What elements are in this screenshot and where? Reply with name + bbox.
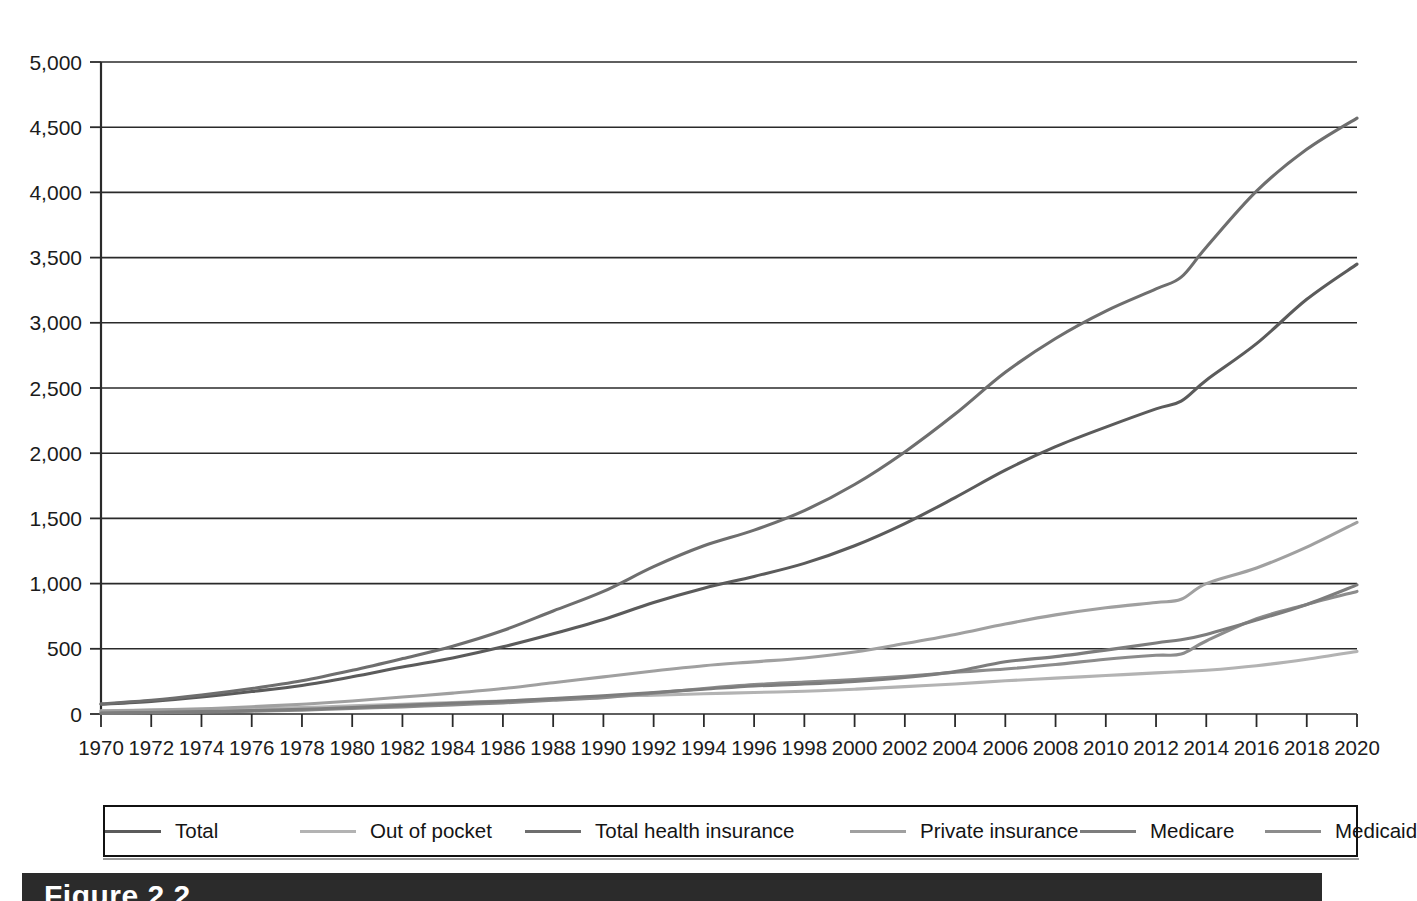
chart-legend: TotalOut of pocketTotal health insurance… [103,805,1358,857]
legend-swatch-icon [525,830,581,833]
legend-swatch-icon [105,830,161,833]
y-axis-tick-label: 3,000 [29,311,82,334]
x-axis-tick-label: 1976 [229,736,275,759]
x-axis-tick-label: 1988 [530,736,576,759]
x-axis-tick-label: 1972 [128,736,174,759]
y-axis-tick-label: 4,500 [29,116,82,139]
legend-swatch-icon [300,830,356,833]
series-line-total [101,264,1357,704]
x-axis-tick-label: 1978 [279,736,325,759]
legend-entry-total-health-insurance[interactable]: Total health insurance [525,819,794,843]
y-axis-tick-label: 2,000 [29,442,82,465]
legend-swatch-icon [1265,830,1321,833]
legend-entry-medicaid[interactable]: Medicaid [1265,819,1417,843]
series-line-out-of-pocket [101,651,1357,710]
series-line-medicaid [101,591,1357,713]
legend-label: Medicaid [1335,819,1417,843]
y-axis-tick-label: 1,000 [29,572,82,595]
y-axis-tick-label: 1,500 [29,507,82,530]
x-axis-tick-label: 1996 [731,736,777,759]
legend-entry-out-of-pocket[interactable]: Out of pocket [300,819,492,843]
line-chart: 05001,0001,5002,0002,5003,0003,5004,0004… [0,0,1401,790]
chart-svg: 05001,0001,5002,0002,5003,0003,5004,0004… [0,0,1401,790]
y-axis-tick-label: 4,000 [29,181,82,204]
figure-caption-banner: Figure 2.2 [22,873,1322,901]
x-axis-tick-label: 2014 [1183,736,1229,759]
series-line-total-health-insurance [101,118,1357,704]
legend-label: Total health insurance [595,819,794,843]
x-axis-tick-label: 1980 [329,736,375,759]
legend-entry-medicare[interactable]: Medicare [1080,819,1234,843]
x-axis-tick-label: 2012 [1133,736,1179,759]
x-axis-tick-label: 1982 [380,736,426,759]
x-axis-tick-label: 1974 [179,736,225,759]
y-axis-tick-label: 0 [70,703,82,726]
legend-entry-total[interactable]: Total [105,819,218,843]
x-axis-tick-label: 2010 [1083,736,1129,759]
y-axis-tick-label: 3,500 [29,246,82,269]
x-axis-tick-label: 1990 [581,736,627,759]
page-divider-rule [103,858,1359,860]
y-axis-tick-label: 2,500 [29,377,82,400]
legend-entry-private-insurance[interactable]: Private insurance [850,819,1078,843]
x-axis-tick-label: 2006 [983,736,1029,759]
y-axis-tick-label: 5,000 [29,51,82,74]
y-axis-tick-label: 500 [47,637,82,660]
x-axis-tick-label: 2018 [1284,736,1330,759]
x-axis-tick-label: 2020 [1334,736,1380,759]
legend-label: Private insurance [920,819,1078,843]
x-axis-tick-label: 2000 [832,736,878,759]
x-axis-tick-label: 2004 [932,736,978,759]
legend-label: Medicare [1150,819,1234,843]
figure-caption-label: Figure 2.2 [44,879,191,901]
x-axis-tick-label: 1970 [78,736,124,759]
legend-label: Out of pocket [370,819,492,843]
x-axis-tick-label: 2008 [1033,736,1079,759]
x-axis-tick-label: 1998 [782,736,828,759]
x-axis-tick-label: 1986 [480,736,526,759]
legend-swatch-icon [1080,830,1136,833]
x-axis-tick-label: 1984 [430,736,476,759]
x-axis-tick-label: 1992 [631,736,677,759]
legend-label: Total [175,819,218,843]
x-axis-tick-label: 2002 [882,736,928,759]
legend-swatch-icon [850,830,906,833]
x-axis-tick-label: 1994 [681,736,727,759]
x-axis-tick-label: 2016 [1234,736,1280,759]
